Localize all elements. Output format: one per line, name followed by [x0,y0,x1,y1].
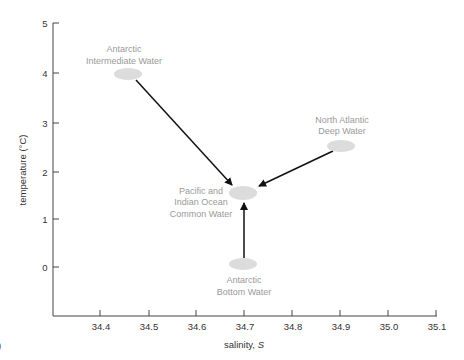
ts-diagram: 5 4 3 2 1 0 34.4 34.5 34.6 34.7 34.8 34.… [0,0,464,360]
arrow-nadw-to-common [259,151,333,186]
y-axis-title: temperature (°C) [17,135,28,206]
y-tick-label: 3 [42,118,47,129]
x-tick-label: 34.5 [140,321,159,332]
x-axis-ticks: 34.4 34.5 34.6 34.7 34.8 34.9 35.0 35.1 [92,310,447,332]
x-tick-label: 34.6 [188,321,207,332]
x-axis-title: salinity, S [224,339,265,350]
x-tick-label: 34.7 [236,321,255,332]
x-tick-label: 34.8 [284,321,303,332]
label-aabw-line2: Bottom Water [217,287,272,297]
mixing-arrows [136,80,333,258]
x-tick-label: 34.9 [332,321,351,332]
x-tick-label: 35.0 [380,321,399,332]
blob-nadw [327,140,355,152]
blob-aabw [229,258,257,270]
label-aaiw-line2: Intermediate Water [86,56,162,66]
arrow-aaiw-to-common [136,80,232,185]
x-axis-title-text: salinity, [224,339,258,350]
label-common-line2: Indian Ocean [174,197,228,207]
blob-aaiw [114,68,142,80]
y-axis-ticks: 5 4 3 2 1 0 [42,18,59,273]
x-axis-title-symbol: S [258,339,265,350]
label-aaiw-line1: Antarctic [106,44,142,54]
x-tick-label: 34.4 [92,321,111,332]
panel-label-fragment: ) [0,340,1,351]
water-mass-labels: Antarctic Intermediate Water North Atlan… [86,44,369,297]
y-tick-label: 0 [42,262,47,273]
y-tick-label: 5 [42,18,47,29]
y-tick-label: 2 [42,167,47,178]
label-nadw-line2: Deep Water [318,126,366,136]
label-common-line3: Common Water [170,209,233,219]
blob-common-water [229,186,257,200]
label-aabw-line1: Antarctic [226,275,262,285]
label-common-line1: Pacific and [179,186,223,196]
y-tick-label: 4 [42,68,47,79]
axes [53,23,437,316]
y-tick-label: 1 [42,214,47,225]
x-tick-label: 35.1 [428,321,447,332]
water-mass-markers [114,68,355,270]
label-nadw-line1: North Atlantic [315,115,369,125]
